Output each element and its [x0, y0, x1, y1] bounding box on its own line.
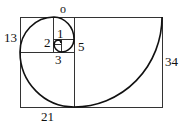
label-5: 5 — [78, 40, 85, 53]
label-2: 2 — [44, 36, 51, 49]
label-13: 13 — [4, 31, 17, 44]
golden-spiral — [20, 17, 162, 107]
label-3: 3 — [55, 53, 62, 66]
label-21: 21 — [41, 110, 54, 122]
fibonacci-spiral-diagram — [0, 0, 181, 122]
label-top: o — [60, 3, 66, 15]
label-1: 1 — [57, 27, 64, 40]
outer-rectangle — [21, 18, 163, 108]
label-34: 34 — [165, 55, 178, 68]
